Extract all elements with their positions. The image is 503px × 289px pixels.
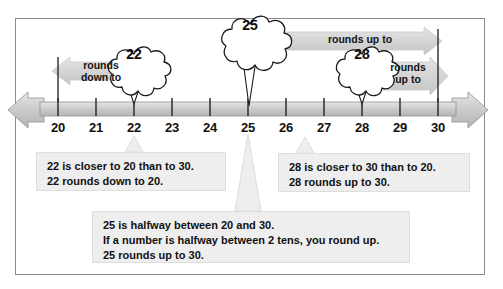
explanation-22: 22 is closer to 20 than to 30. 22 rounds… — [36, 152, 226, 191]
explanation-28: 28 is closer to 30 than to 20. 28 rounds… — [278, 153, 470, 192]
explanation-22-line-1: 22 is closer to 20 than to 30. — [47, 159, 216, 174]
band-label-rounds-up-to-25: rounds up to — [300, 34, 420, 46]
tick-label-21: 21 — [81, 120, 111, 135]
band-label-rounds-up-to-28: rounds up to — [382, 62, 434, 85]
tick-label-30: 30 — [423, 120, 453, 135]
tick-label-29: 29 — [385, 120, 415, 135]
explanation-25: 25 is halfway between 20 and 30. If a nu… — [92, 211, 410, 263]
tick-label-22: 22 — [119, 120, 149, 135]
explanation-25-line-1: 25 is halfway between 20 and 30. — [103, 218, 400, 233]
explanation-22-line-2: 22 rounds down to 20. — [47, 174, 216, 189]
tick-label-24: 24 — [195, 120, 225, 135]
tick-label-20: 20 — [43, 120, 73, 135]
explanation-28-line-1: 28 is closer to 30 than to 20. — [289, 160, 460, 175]
explanation-28-line-2: 28 rounds up to 30. — [289, 175, 460, 190]
tick-label-23: 23 — [157, 120, 187, 135]
tick-label-25: 25 — [233, 120, 263, 135]
band-label-rounds-down-to: rounds down to — [68, 60, 134, 83]
explanation-25-line-2: If a number is halfway between 2 tens, y… — [103, 233, 400, 248]
explanation-25-line-3: 25 rounds up to 30. — [103, 248, 400, 263]
tick-label-27: 27 — [309, 120, 339, 135]
tick-label-26: 26 — [271, 120, 301, 135]
tick-label-28: 28 — [347, 120, 377, 135]
figure-canvas: 20 21 22 23 24 25 26 27 28 29 30 rounds … — [0, 0, 503, 289]
